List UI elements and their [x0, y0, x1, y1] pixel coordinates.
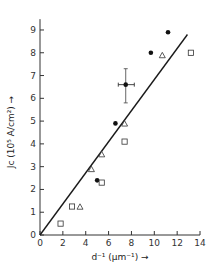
y-tick-label: 6 — [30, 93, 36, 103]
open-triangle-marker — [77, 204, 83, 209]
filled-circle-marker — [123, 82, 128, 87]
x-tick-label: 8 — [129, 238, 135, 248]
x-tick-label: 2 — [60, 238, 66, 248]
x-tick-label: 12 — [171, 238, 182, 248]
filled-circle-marker — [149, 50, 154, 55]
regression-line — [40, 35, 187, 235]
open-square-marker — [99, 180, 104, 185]
x-axis: 02468101214 — [37, 231, 206, 248]
open-square-marker — [122, 139, 127, 144]
y-axis-label: Jᴄ (10⁵ A/cm²) → — [6, 95, 16, 169]
x-tick-label: 0 — [37, 238, 43, 248]
x-axis-label: d⁻¹ (μm⁻¹) → — [91, 252, 149, 262]
y-tick-label: 5 — [30, 116, 36, 126]
y-tick-label: 7 — [30, 71, 36, 81]
filled-circle-marker — [113, 121, 118, 126]
open-square-marker — [188, 50, 193, 55]
filled-circle-marker — [166, 30, 171, 35]
x-tick-label: 14 — [194, 238, 206, 248]
y-tick-label: 9 — [30, 25, 36, 35]
fit-line — [40, 35, 187, 235]
open-square-marker — [69, 204, 74, 209]
x-tick-label: 10 — [149, 238, 161, 248]
data-points — [58, 30, 194, 226]
scatter-chart: 02468101214 0123456789 d⁻¹ (μm⁻¹) → Jᴄ (… — [0, 0, 215, 278]
y-axis: 0123456789 — [30, 19, 44, 240]
y-tick-label: 8 — [30, 48, 36, 58]
y-tick-label: 0 — [30, 230, 36, 240]
open-triangle-marker — [159, 52, 165, 57]
y-tick-label: 4 — [30, 139, 36, 149]
x-tick-label: 4 — [83, 238, 89, 248]
y-tick-label: 1 — [30, 207, 36, 217]
y-tick-label: 2 — [30, 184, 36, 194]
y-tick-label: 3 — [30, 162, 36, 172]
x-tick-label: 6 — [106, 238, 112, 248]
open-square-marker — [58, 221, 63, 226]
